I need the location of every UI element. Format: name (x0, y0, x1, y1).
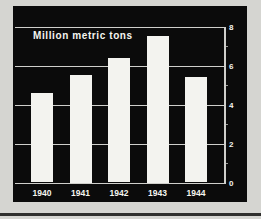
y-axis-line (224, 27, 226, 185)
y-tick-label-6: 6 (229, 63, 233, 71)
gridline-0 (15, 183, 226, 185)
chart-title: Million metric tons (33, 30, 133, 41)
x-tick-label-1941: 1941 (71, 188, 90, 198)
bar-1942 (108, 58, 130, 183)
y-tick-label-4: 4 (229, 102, 233, 110)
bar-1943 (147, 36, 169, 182)
x-tick-label-1940: 1940 (33, 188, 52, 198)
y-tick-label-2: 2 (229, 141, 233, 149)
x-tick-label-1942: 1942 (110, 188, 129, 198)
x-tick-label-1944: 1944 (187, 188, 206, 198)
x-tick-label-1943: 1943 (148, 188, 167, 198)
bottom-divider (0, 213, 261, 216)
page: Million metric tons 02468194019411942194… (0, 0, 261, 219)
bar-1944 (185, 77, 207, 182)
gridline-8 (15, 27, 226, 29)
bar-1940 (31, 93, 53, 183)
y-tick-label-8: 8 (229, 24, 233, 32)
bar-chart-panel: Million metric tons 02468194019411942194… (13, 6, 247, 202)
bar-1941 (70, 75, 92, 182)
y-tick-label-0: 0 (229, 180, 233, 188)
